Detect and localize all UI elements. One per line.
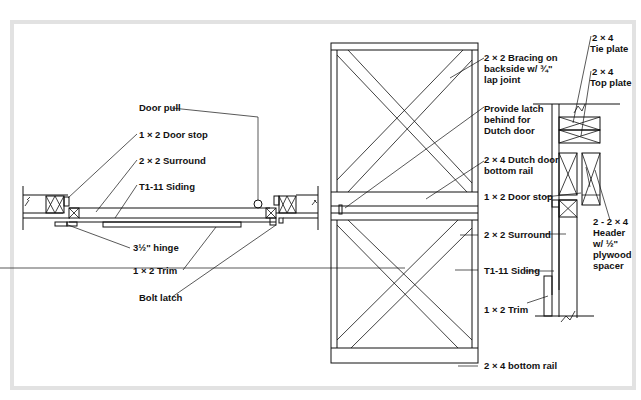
- label-header-line2: Header: [593, 227, 626, 238]
- label-top-plate-line2: Top plate: [590, 77, 632, 88]
- label-bottom-rail: 2 × 4 bottom rail: [484, 360, 557, 371]
- label-latch-line1: Provide latch: [484, 103, 544, 114]
- label-door-stop: 1 × 2 Door stop: [484, 191, 553, 202]
- label-surround: 2 × 2 Surround: [139, 155, 206, 166]
- label-siding: T1-11 Siding: [139, 181, 195, 192]
- label-header-line3: w/ ½": [592, 238, 618, 249]
- label-dutch-rail-line2: bottom rail: [484, 165, 533, 176]
- label-surround: 2 × 2 Surround: [484, 229, 551, 240]
- label-trim: 1 × 2 Trim: [484, 304, 528, 315]
- label-siding: T1-11 Siding: [484, 265, 540, 276]
- label-header-line1: 2 - 2 × 4: [593, 216, 629, 227]
- label-header-line4: plywood: [593, 249, 632, 260]
- label-bracing-line1: 2 × 2 Bracing on: [484, 52, 558, 63]
- label-bracing-line2: backside w/ ¾": [484, 63, 552, 74]
- label-bracing-line3: lap joint: [484, 74, 521, 85]
- label-door-stop: 1 × 2 Door stop: [139, 129, 208, 140]
- plan-section-view: Door pull 1 × 2 Door stop 2 × 2 Surround…: [23, 102, 318, 303]
- label-tie-plate-line1: 2 × 4: [592, 32, 614, 43]
- label-bolt-latch: Bolt latch: [139, 292, 182, 303]
- side-section-view: 2 × 4 Tie plate 2 × 4 Top plate 2 - 2 × …: [525, 32, 632, 322]
- label-door-pull: Door pull: [139, 102, 181, 113]
- label-tie-plate-line2: Tie plate: [590, 43, 628, 54]
- label-trim: 1 × 2 Trim: [133, 265, 177, 276]
- label-header-line5: spacer: [593, 260, 624, 271]
- label-dutch-rail-line1: 2 × 4 Dutch door: [484, 154, 559, 165]
- label-latch-line3: Dutch door: [484, 125, 535, 136]
- label-latch-line2: behind for: [484, 114, 531, 125]
- label-top-plate-line1: 2 × 4: [592, 66, 614, 77]
- drawing-canvas: Door pull 1 × 2 Door stop 2 × 2 Surround…: [0, 0, 641, 400]
- label-hinge: 3½" hinge: [133, 242, 179, 253]
